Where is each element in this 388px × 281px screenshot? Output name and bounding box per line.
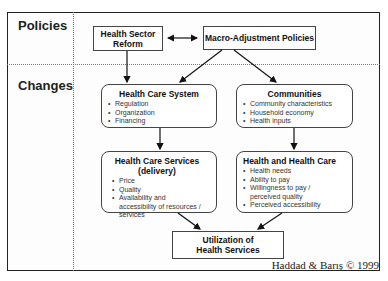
connector-arrows bbox=[0, 0, 388, 281]
arrow-macro-to-communities bbox=[234, 50, 276, 82]
arrow-services-to-utilization bbox=[178, 213, 200, 229]
arrow-health-to-utilization bbox=[258, 213, 282, 229]
arrow-macro-to-system bbox=[180, 50, 222, 82]
copyright-credit: Haddad & Barış © 1999 bbox=[272, 259, 379, 271]
